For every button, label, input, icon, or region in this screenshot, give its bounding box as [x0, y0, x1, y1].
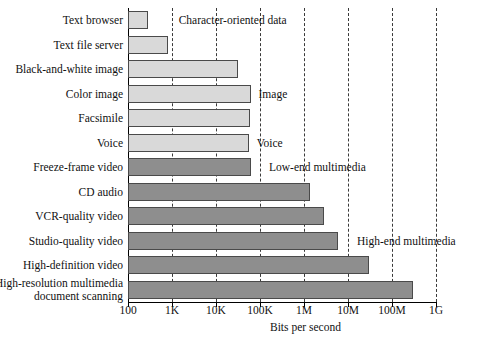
category-label: Black-and-white image: [0, 63, 123, 76]
bar: [128, 256, 369, 274]
x-axis-tick-label: 10M: [337, 304, 359, 316]
x-axis-tick-label: 10K: [206, 304, 226, 316]
x-axis-tick-label: 1M: [296, 304, 312, 316]
x-axis-tick-label: 100K: [247, 304, 273, 316]
category-label: Facsimile: [0, 112, 123, 125]
bar: [128, 109, 250, 127]
chart-annotation: Image: [259, 88, 288, 100]
chart-annotation: Character-oriented data: [179, 14, 287, 26]
chart-annotation: Voice: [257, 137, 283, 149]
chart-annotation: High-end multimedia: [357, 235, 456, 247]
x-axis-tick-label: 1K: [165, 304, 179, 316]
bar: [128, 281, 413, 299]
plot-area: Character-oriented dataImageVoiceLow-end…: [128, 8, 436, 303]
bar: [128, 60, 238, 78]
chart-annotation: Low-end multimedia: [269, 161, 366, 173]
category-label: High-resolution multimedia document scan…: [0, 277, 123, 302]
gridline: [436, 8, 437, 302]
category-label: VCR-quality video: [0, 210, 123, 223]
category-label: Studio-quality video: [0, 235, 123, 248]
category-label: Color image: [0, 88, 123, 101]
category-label: High-definition video: [0, 259, 123, 272]
bar: [128, 158, 251, 176]
category-label: Text browser: [0, 14, 123, 27]
bandwidth-requirements-bar-chart: Character-oriented dataImageVoiceLow-end…: [0, 0, 479, 348]
bar: [128, 207, 324, 225]
category-label: Voice: [0, 137, 123, 150]
bar: [128, 36, 168, 54]
x-axis-tick-label: 100: [119, 304, 136, 316]
bar: [128, 232, 338, 250]
category-label: Text file server: [0, 39, 123, 52]
bar: [128, 134, 249, 152]
category-label: Freeze-frame video: [0, 161, 123, 174]
x-axis-title: Bits per second: [270, 321, 341, 333]
bar: [128, 85, 251, 103]
x-axis-tick-label: 1G: [429, 304, 443, 316]
x-axis-tick-label: 100M: [378, 304, 405, 316]
x-axis-line: [128, 302, 436, 303]
bar: [128, 183, 310, 201]
category-label: CD audio: [0, 186, 123, 199]
bar: [128, 11, 148, 29]
gridline: [392, 8, 393, 302]
